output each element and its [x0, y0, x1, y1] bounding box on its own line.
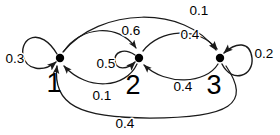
- self-loop-node-3-weight: 0.2: [255, 46, 274, 61]
- self-loop-node-1-weight: 0.3: [6, 51, 25, 66]
- edge-3-to-1-weight: 0.4: [116, 116, 135, 131]
- node-1[interactable]: 1: [46, 54, 64, 98]
- edge-2-to-3: 0.4: [143, 27, 217, 51]
- self-loop-node-3-path: [222, 45, 252, 76]
- node-2-dot[interactable]: [135, 54, 143, 62]
- self-loop-node-1-path: [23, 37, 57, 68]
- node-2[interactable]: 2: [125, 54, 143, 100]
- edge-2-to-1-weight: 0.1: [93, 88, 112, 103]
- edge-2-to-3-weight: 0.4: [181, 27, 200, 42]
- self-loop-node-1: 0.3: [6, 37, 57, 68]
- self-loop-node-2-weight: 0.5: [97, 56, 116, 71]
- edge-1-to-2: 0.6: [64, 23, 140, 51]
- edge-3-to-2-weight: 0.4: [174, 79, 193, 94]
- graph-canvas: 0.1 0.4 0.6 0.1 0.4 0.4: [0, 0, 280, 135]
- node-2-label: 2: [125, 70, 140, 100]
- self-loop-node-2: 0.5: [97, 51, 135, 71]
- edge-1-to-2-weight: 0.6: [122, 23, 141, 38]
- self-loop-node-2-path: [115, 51, 135, 68]
- state-transition-diagram: 0.1 0.4 0.6 0.1 0.4 0.4: [0, 0, 280, 135]
- node-3-dot[interactable]: [216, 54, 224, 62]
- node-3[interactable]: 3: [206, 54, 224, 100]
- edge-1-to-3-weight: 0.1: [190, 3, 209, 18]
- node-1-label: 1: [46, 68, 61, 98]
- node-1-dot[interactable]: [56, 54, 64, 62]
- node-3-label: 3: [206, 70, 221, 100]
